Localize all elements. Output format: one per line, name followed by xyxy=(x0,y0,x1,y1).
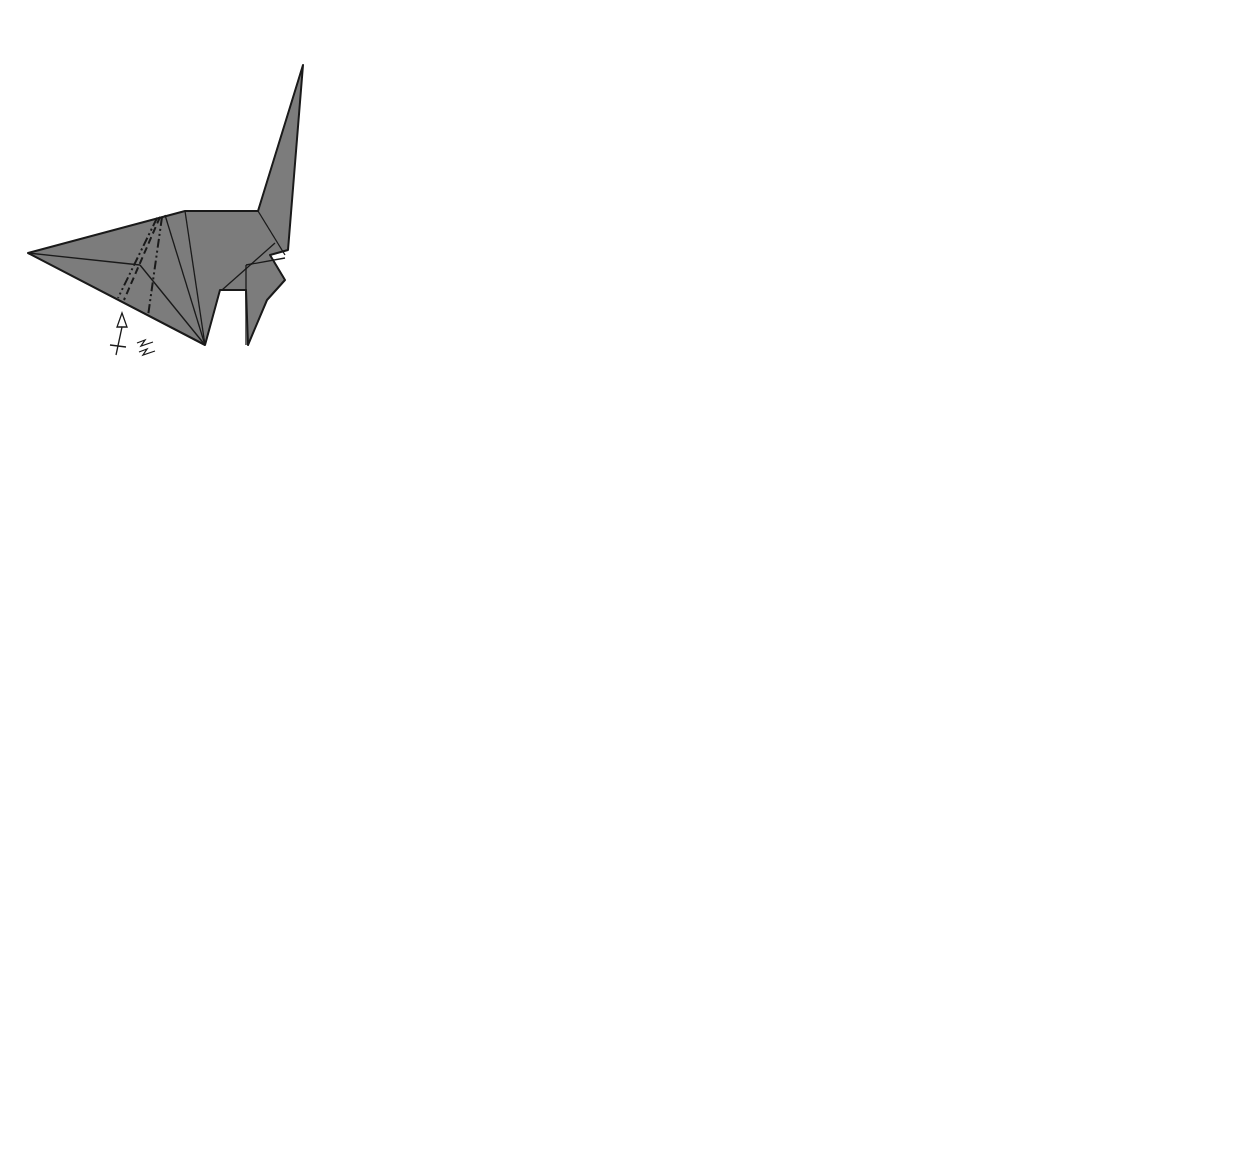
step-46-label xyxy=(627,679,631,697)
zigzag-arrow-icon xyxy=(137,340,153,346)
step-42-label xyxy=(627,369,631,387)
step-45-label xyxy=(331,679,335,697)
step-43-label xyxy=(922,369,926,387)
step-40-figure xyxy=(28,65,303,345)
step-44-label xyxy=(33,679,37,697)
diagram-canvas xyxy=(0,0,1246,1155)
step-40-label xyxy=(32,369,36,387)
step-41-label xyxy=(349,369,353,387)
step-40-arrows xyxy=(110,313,155,355)
push-arrow-icon xyxy=(117,313,127,327)
